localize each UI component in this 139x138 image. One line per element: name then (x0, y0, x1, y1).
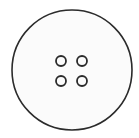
sewing-button-icon (0, 0, 139, 138)
button-icon-canvas: Sewing button (0, 0, 139, 138)
button-outline-icon (12, 10, 132, 130)
